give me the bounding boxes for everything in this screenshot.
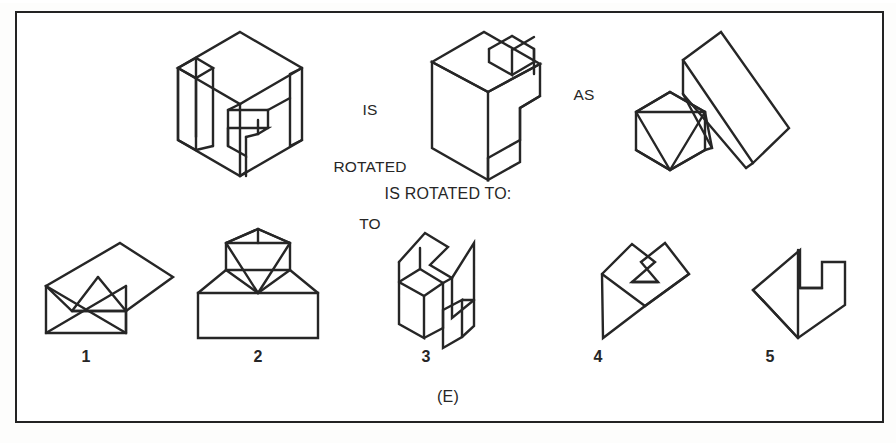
connector-as: AS <box>556 86 612 104</box>
icosahedron-wedge-figure <box>636 32 789 170</box>
connector-line-to: TO <box>316 214 424 233</box>
connector-line-is: IS <box>316 100 424 119</box>
connector-is-rotated-to-block: IS ROTATED TO <box>316 62 424 271</box>
test-plate: IS ROTATED TO AS IS ROTATED TO: 1 2 3 4 … <box>0 0 896 443</box>
option-number-2[interactable]: 2 <box>228 348 288 366</box>
figure-artwork-layer <box>0 0 896 443</box>
option-number-5[interactable]: 5 <box>740 348 800 366</box>
plate-label: (E) <box>0 388 896 406</box>
notched-cube-figure <box>178 32 302 176</box>
option-2-figure <box>198 229 318 338</box>
l-block-figure <box>432 32 540 180</box>
option-number-1[interactable]: 1 <box>56 348 116 366</box>
option-5-figure <box>753 250 845 338</box>
connector-line-rotated: ROTATED <box>316 157 424 176</box>
option-1-figure <box>46 243 173 333</box>
prompt-is-rotated-to: IS ROTATED TO: <box>0 185 896 203</box>
option-number-3[interactable]: 3 <box>396 348 456 366</box>
option-number-4[interactable]: 4 <box>568 348 628 366</box>
option-4-figure <box>602 243 689 338</box>
